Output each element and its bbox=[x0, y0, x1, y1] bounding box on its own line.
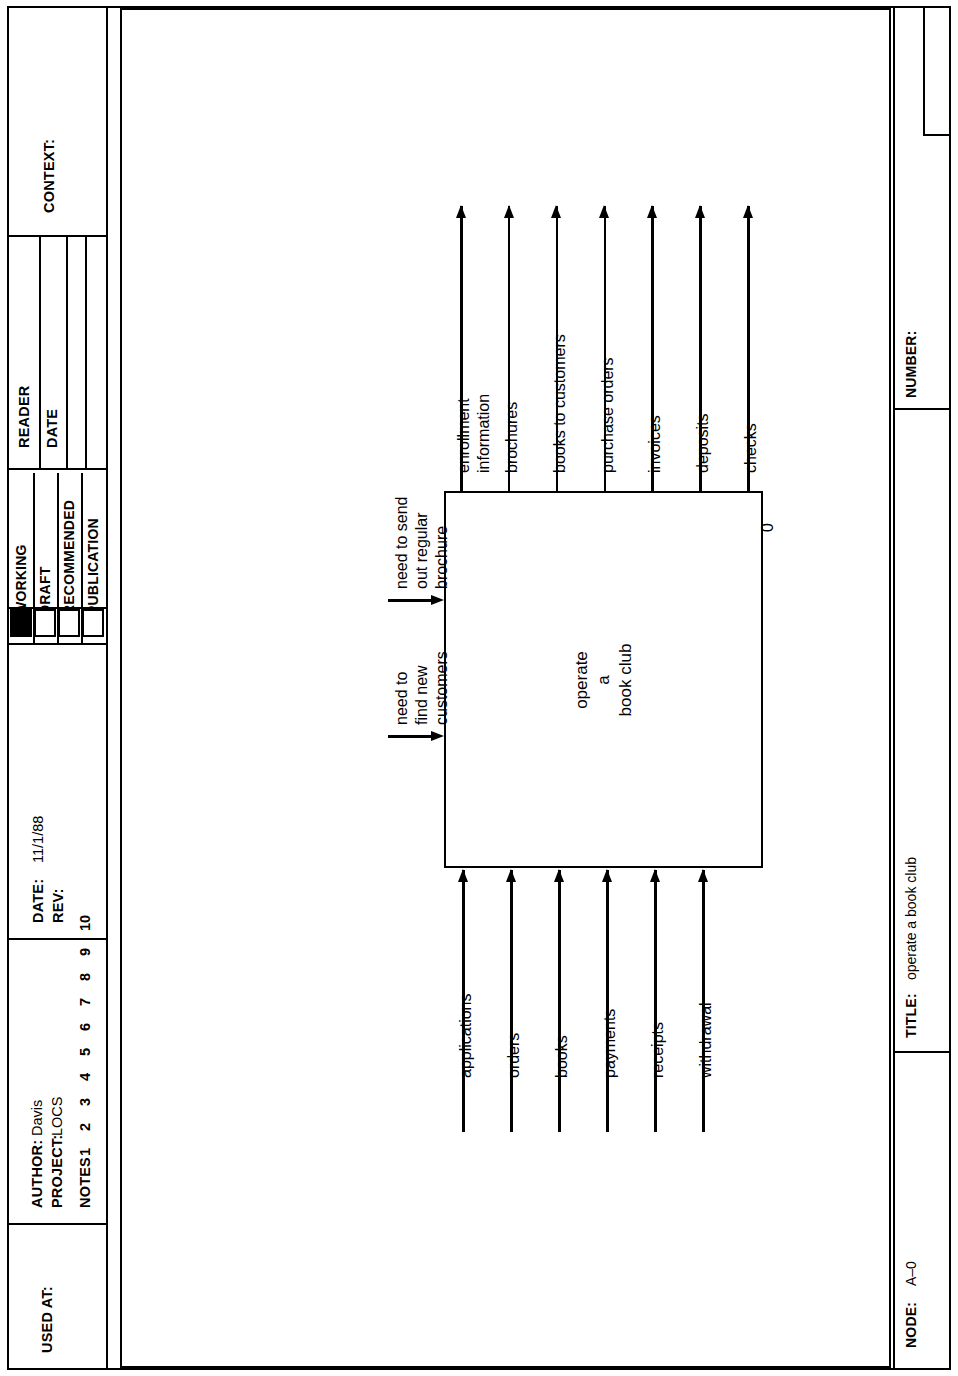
notes-number[interactable]: 7 bbox=[77, 998, 93, 1006]
reader-date-label: DATE bbox=[44, 409, 60, 448]
output-arrow-head bbox=[456, 205, 466, 218]
status-checkbox-recommended[interactable] bbox=[58, 609, 80, 637]
date-value: 11/1/88 bbox=[30, 816, 46, 863]
notes-number[interactable]: 5 bbox=[77, 1048, 93, 1056]
activity-label-line: operate bbox=[571, 643, 593, 716]
input-arrow-label: withdrawal bbox=[696, 1002, 716, 1078]
status-checkbox-divider bbox=[9, 607, 106, 609]
reader-label: READER bbox=[16, 386, 32, 448]
used-at-label: USED AT: bbox=[39, 1286, 55, 1353]
activity-label-line: book club bbox=[614, 643, 636, 716]
output-arrow-label: invoices bbox=[645, 415, 665, 473]
input-arrow-head bbox=[698, 869, 708, 882]
notes-number[interactable]: 10 bbox=[77, 915, 93, 931]
activity-label-line: a bbox=[593, 643, 615, 716]
notes-number[interactable]: 9 bbox=[77, 948, 93, 956]
author-value: Davis bbox=[29, 1100, 45, 1136]
divider-node-title bbox=[895, 1051, 951, 1053]
output-arrow-label: checks bbox=[741, 423, 761, 473]
notes-number[interactable]: 8 bbox=[77, 973, 93, 981]
input-arrow-label: orders bbox=[504, 1033, 524, 1078]
node-value: A–0 bbox=[903, 1261, 919, 1286]
context-label: CONTEXT: bbox=[41, 139, 57, 213]
title-label: TITLE: bbox=[903, 993, 919, 1038]
rev-label: REV: bbox=[50, 888, 66, 923]
node-label: NODE: bbox=[903, 1302, 919, 1348]
notes-number[interactable]: 6 bbox=[77, 1023, 93, 1031]
number-notch-box bbox=[923, 8, 951, 136]
input-arrow-shaft bbox=[510, 870, 513, 1132]
control-arrow-shaft bbox=[388, 599, 436, 602]
divider-used-at bbox=[9, 1223, 106, 1225]
status-label-recommended: RECOMMENDED bbox=[61, 500, 77, 615]
divider-author bbox=[9, 938, 106, 940]
date-label: DATE: bbox=[30, 879, 46, 923]
control-arrow-shaft bbox=[388, 735, 436, 738]
input-arrow-label: receipts bbox=[648, 1022, 668, 1078]
input-arrow-shaft bbox=[558, 870, 561, 1132]
activity-label: operateabook club bbox=[571, 643, 636, 716]
divider-title-number bbox=[895, 408, 951, 410]
output-arrow-head bbox=[504, 205, 514, 218]
output-arrow-label: purchase orders bbox=[598, 357, 618, 473]
output-arrow-head bbox=[599, 205, 609, 218]
divider-status bbox=[9, 468, 106, 470]
author-label: AUTHOR: bbox=[29, 1140, 45, 1208]
output-arrow-head bbox=[647, 205, 657, 218]
activity-box[interactable]: operateabook club 0 bbox=[444, 491, 763, 868]
form-header-strip: USED AT: AUTHOR: Davis PROJECT: LOCS NOT… bbox=[9, 8, 108, 1368]
status-checkbox-publication[interactable] bbox=[82, 609, 104, 637]
diagram-canvas: operateabook club 0 enrollment informati… bbox=[120, 8, 891, 1368]
input-arrow-label: books bbox=[552, 1035, 572, 1078]
input-arrow-head bbox=[458, 869, 468, 882]
status-checkbox-working[interactable] bbox=[10, 609, 32, 637]
notes-number[interactable]: 2 bbox=[77, 1123, 93, 1131]
form-footer-strip: NODE: A–0 TITLE: operate a book club NUM… bbox=[893, 8, 951, 1368]
input-arrow-head bbox=[602, 869, 612, 882]
output-arrow-label: deposits bbox=[693, 413, 713, 473]
notes-label: NOTES bbox=[77, 1157, 93, 1208]
divider-reader-date bbox=[66, 235, 68, 468]
output-arrow-label: books to customers bbox=[550, 334, 570, 473]
notes-number[interactable]: 1 bbox=[77, 1148, 93, 1156]
control-arrow-head bbox=[431, 595, 444, 605]
output-arrow-head bbox=[743, 205, 753, 218]
control-arrow-label: need to find new customers bbox=[392, 651, 452, 725]
control-arrow-head bbox=[431, 731, 444, 741]
notes-number[interactable]: 3 bbox=[77, 1098, 93, 1106]
output-arrow-label: enrollment information bbox=[454, 394, 494, 473]
input-arrow-head bbox=[506, 869, 516, 882]
activity-number: 0 bbox=[759, 523, 777, 532]
output-arrow-label: brochures bbox=[502, 402, 522, 473]
status-checkbox-draft[interactable] bbox=[34, 609, 56, 637]
notes-number[interactable]: 4 bbox=[77, 1073, 93, 1081]
title-value: operate a book club bbox=[903, 857, 919, 980]
output-arrow-head bbox=[551, 205, 561, 218]
input-arrow-label: applications bbox=[456, 994, 476, 1079]
input-arrow-shaft bbox=[654, 870, 657, 1132]
divider-reader-rows-2 bbox=[85, 235, 87, 468]
divider-reader-rows-1 bbox=[39, 235, 41, 468]
divider-reader bbox=[9, 235, 106, 237]
output-arrow-head bbox=[695, 205, 705, 218]
input-arrow-head bbox=[554, 869, 564, 882]
input-arrow-label: payments bbox=[600, 1009, 620, 1078]
status-label-working: WORKING bbox=[13, 544, 29, 615]
status-label-publication: PUBLICATION bbox=[85, 518, 101, 615]
project-label: PROJECT: bbox=[49, 1135, 65, 1208]
input-arrow-shaft bbox=[606, 870, 609, 1132]
control-arrow-label: need to send out regular brochure bbox=[392, 496, 452, 589]
input-arrow-shaft bbox=[702, 870, 705, 1132]
project-value: LOCS bbox=[49, 1097, 65, 1137]
input-arrow-head bbox=[650, 869, 660, 882]
number-label: NUMBER: bbox=[903, 330, 919, 398]
divider-date bbox=[9, 643, 106, 645]
